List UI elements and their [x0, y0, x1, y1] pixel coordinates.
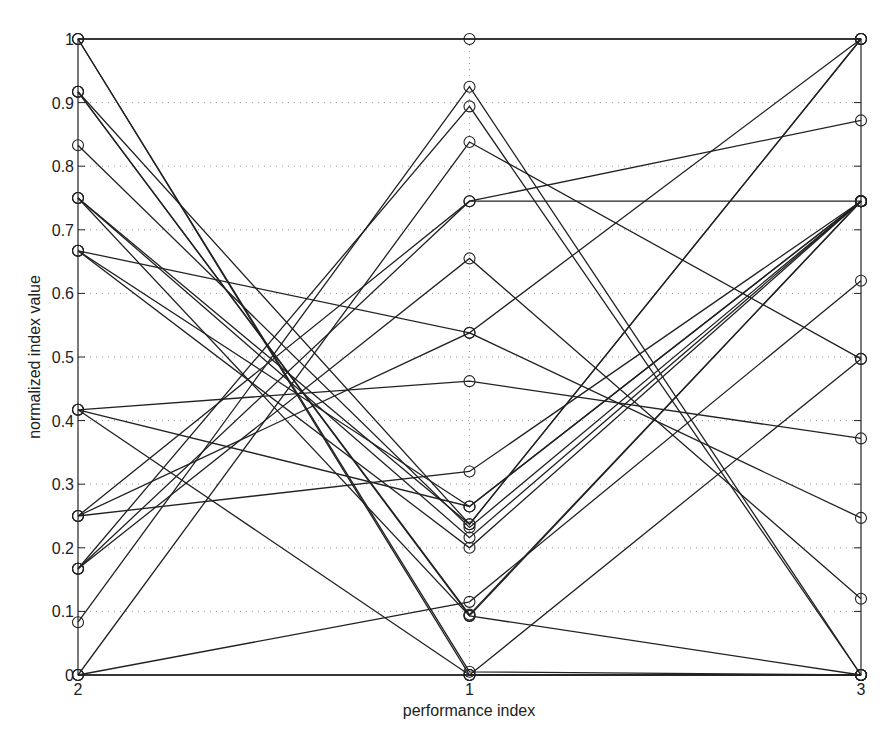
series-line: [78, 120, 861, 516]
y-tick-label: 0.3: [52, 476, 74, 493]
series-line: [78, 106, 861, 675]
grid-lines: [78, 39, 861, 675]
series-line: [78, 145, 861, 527]
y-tick-label: 0.7: [52, 222, 74, 239]
x-tick-label: 1: [465, 681, 474, 698]
series-line: [78, 39, 861, 333]
y-tick-label: 0.6: [52, 285, 74, 302]
x-tick-label: 2: [74, 681, 83, 698]
y-axis-title: normalized index value: [26, 275, 43, 439]
series-line: [78, 92, 861, 615]
series-line: [78, 333, 861, 518]
y-tick-label: 1: [65, 31, 74, 48]
y-tick-label: 0.9: [52, 95, 74, 112]
x-axis-title: performance index: [403, 702, 536, 719]
y-tick-label: 0.1: [52, 603, 74, 620]
x-axis-ticks: 213: [74, 681, 866, 698]
parallel-coordinates-chart: 00.10.20.30.40.50.60.70.80.91 213 perfor…: [0, 0, 892, 741]
y-tick-label: 0.2: [52, 540, 74, 557]
x-tick-label: 3: [857, 681, 866, 698]
y-tick-label: 0.4: [52, 413, 74, 430]
y-tick-label: 0.8: [52, 158, 74, 175]
y-tick-label: 0.5: [52, 349, 74, 366]
